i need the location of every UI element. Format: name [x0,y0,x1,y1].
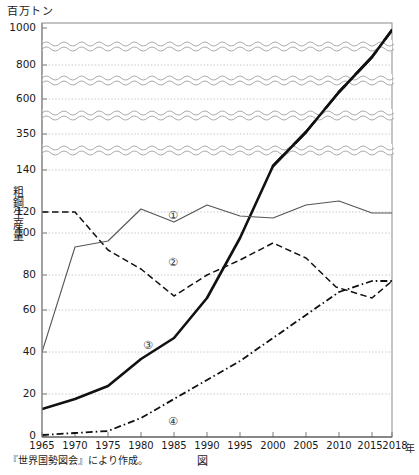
figure-root: 百万トン [0,0,419,475]
y-tick-600: 600 [2,92,36,104]
axis-break-band-1 [42,40,394,51]
axis-break-band-4 [42,144,394,155]
x-tick-1965: 1965 [25,440,59,451]
chart-plot-area [0,0,419,475]
plot-frame [42,23,392,437]
source-note: 『世界国勢図会』により作成。 [8,452,148,467]
y-tick-40: 40 [2,345,36,357]
figure-caption: 図 [197,452,208,468]
y-tick-80: 80 [2,268,36,280]
series-tag-3: ③ [143,339,153,352]
x-tick-1990: 1990 [190,440,224,451]
y-axis-title: 粗鋼生産量 [9,186,23,241]
axis-break-band-2 [42,74,394,85]
x-tick-2010: 2010 [322,440,356,451]
series-tag-4: ④ [168,415,178,428]
series-tag-2: ② [168,256,178,269]
y-tick-140: 140 [2,163,36,175]
y-tick-20: 20 [2,387,36,399]
axis-break-band-3 [42,109,394,120]
x-tick-2005: 2005 [289,440,323,451]
y-tick-800: 800 [2,58,36,70]
x-tick-2000: 2000 [256,440,290,451]
x-tick-1975: 1975 [91,440,125,451]
y-tick-60: 60 [2,303,36,315]
series-tag-1: ① [168,209,178,222]
x-tick-1980: 1980 [124,440,158,451]
x-axis-unit-label: 年 [405,440,415,455]
y-tick-350: 350 [2,127,36,139]
x-tick-1995: 1995 [223,440,257,451]
x-tick-1970: 1970 [58,440,92,451]
y-tick-1000: 1000 [2,21,36,33]
x-tick-1985: 1985 [157,440,191,451]
